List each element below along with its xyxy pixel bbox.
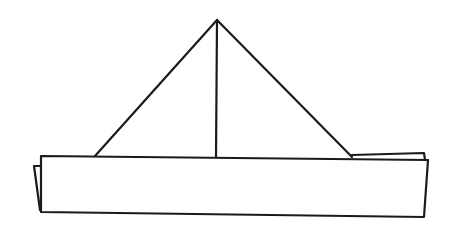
sail-left-edge [95,20,217,156]
drawing-canvas: Line drawing of a folded paper hat / pap… [0,0,451,230]
sail-right-edge [217,20,352,157]
paper-hat-drawing [0,0,451,230]
center-fold-line [216,20,217,158]
hull-band [41,156,428,217]
